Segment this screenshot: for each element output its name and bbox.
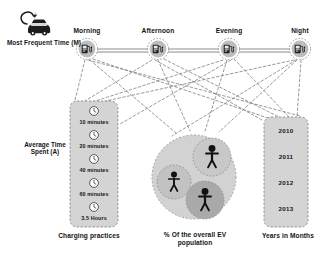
year-label-2010: 2010 <box>264 128 308 135</box>
clock-icon <box>90 179 99 188</box>
edge-cross-4 <box>120 60 231 124</box>
practice-item-3[interactable] <box>90 179 99 188</box>
clock-icon <box>90 131 99 140</box>
practice-item-0[interactable] <box>90 107 99 116</box>
node-label-morning: Morning <box>62 27 112 34</box>
charging-practices-caption: Charging practices <box>46 232 132 239</box>
population-group-0[interactable] <box>157 165 191 199</box>
node-night[interactable] <box>289 38 310 59</box>
year-label-2013: 2013 <box>264 206 308 213</box>
year-label-2011: 2011 <box>264 154 308 161</box>
practice-item-4[interactable] <box>90 203 99 212</box>
years-caption: Years in Months <box>249 232 327 239</box>
practice-label-3: 60 minutes <box>70 191 118 197</box>
edge-evening-years <box>234 59 290 118</box>
practice-label-4: 3.5 Hours <box>70 215 118 221</box>
node-afternoon[interactable] <box>147 38 168 59</box>
node-label-afternoon: Afternoon <box>131 27 185 34</box>
edge-group-solid <box>97 49 290 52</box>
clock-icon <box>90 107 99 116</box>
edge-evening-practices <box>86 60 223 104</box>
node-label-night: Night <box>276 27 324 34</box>
edge-night-years <box>297 60 301 118</box>
electric-car-charging-icon <box>21 12 50 36</box>
node-label-evening: Evening <box>204 27 254 34</box>
practice-label-0: 10 minutes <box>70 119 118 125</box>
edge-cross-3 <box>155 60 262 120</box>
average-time-spent-label: Average Time Spent (A) <box>18 141 72 155</box>
clock-icon <box>90 155 99 164</box>
year-label-2012: 2012 <box>264 180 308 187</box>
practice-item-2[interactable] <box>90 155 99 164</box>
edge-morning-practices <box>74 60 85 104</box>
edge-cross-1 <box>88 60 300 116</box>
most-frequent-time-label: Most Frequent Time (M) <box>6 39 82 46</box>
population-caption: % Of the overall EV population <box>147 231 243 247</box>
practice-item-1[interactable] <box>90 131 99 140</box>
population-cluster <box>152 135 236 219</box>
node-evening[interactable] <box>218 38 239 59</box>
population-group-1[interactable] <box>193 138 231 176</box>
clock-icon <box>90 203 99 212</box>
population-group-2[interactable] <box>186 181 224 219</box>
practice-label-2: 40 minutes <box>70 167 118 173</box>
practice-label-1: 20 minutes <box>70 143 118 149</box>
